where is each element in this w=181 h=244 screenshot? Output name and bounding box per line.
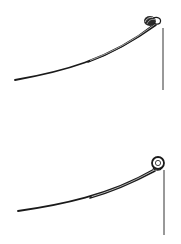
rolled-eye-spring-figure bbox=[18, 157, 164, 235]
main-leaf bbox=[18, 170, 153, 211]
upturned-eye-spring-figure bbox=[15, 16, 163, 90]
main-leaf bbox=[15, 24, 155, 80]
diagram-svg bbox=[0, 0, 181, 244]
leaf-gap-highlight bbox=[90, 24, 156, 61]
spring-eye-icon bbox=[144, 16, 161, 26]
leaf-spring-diagram bbox=[0, 0, 181, 244]
rolled-eye-icon bbox=[152, 157, 164, 170]
